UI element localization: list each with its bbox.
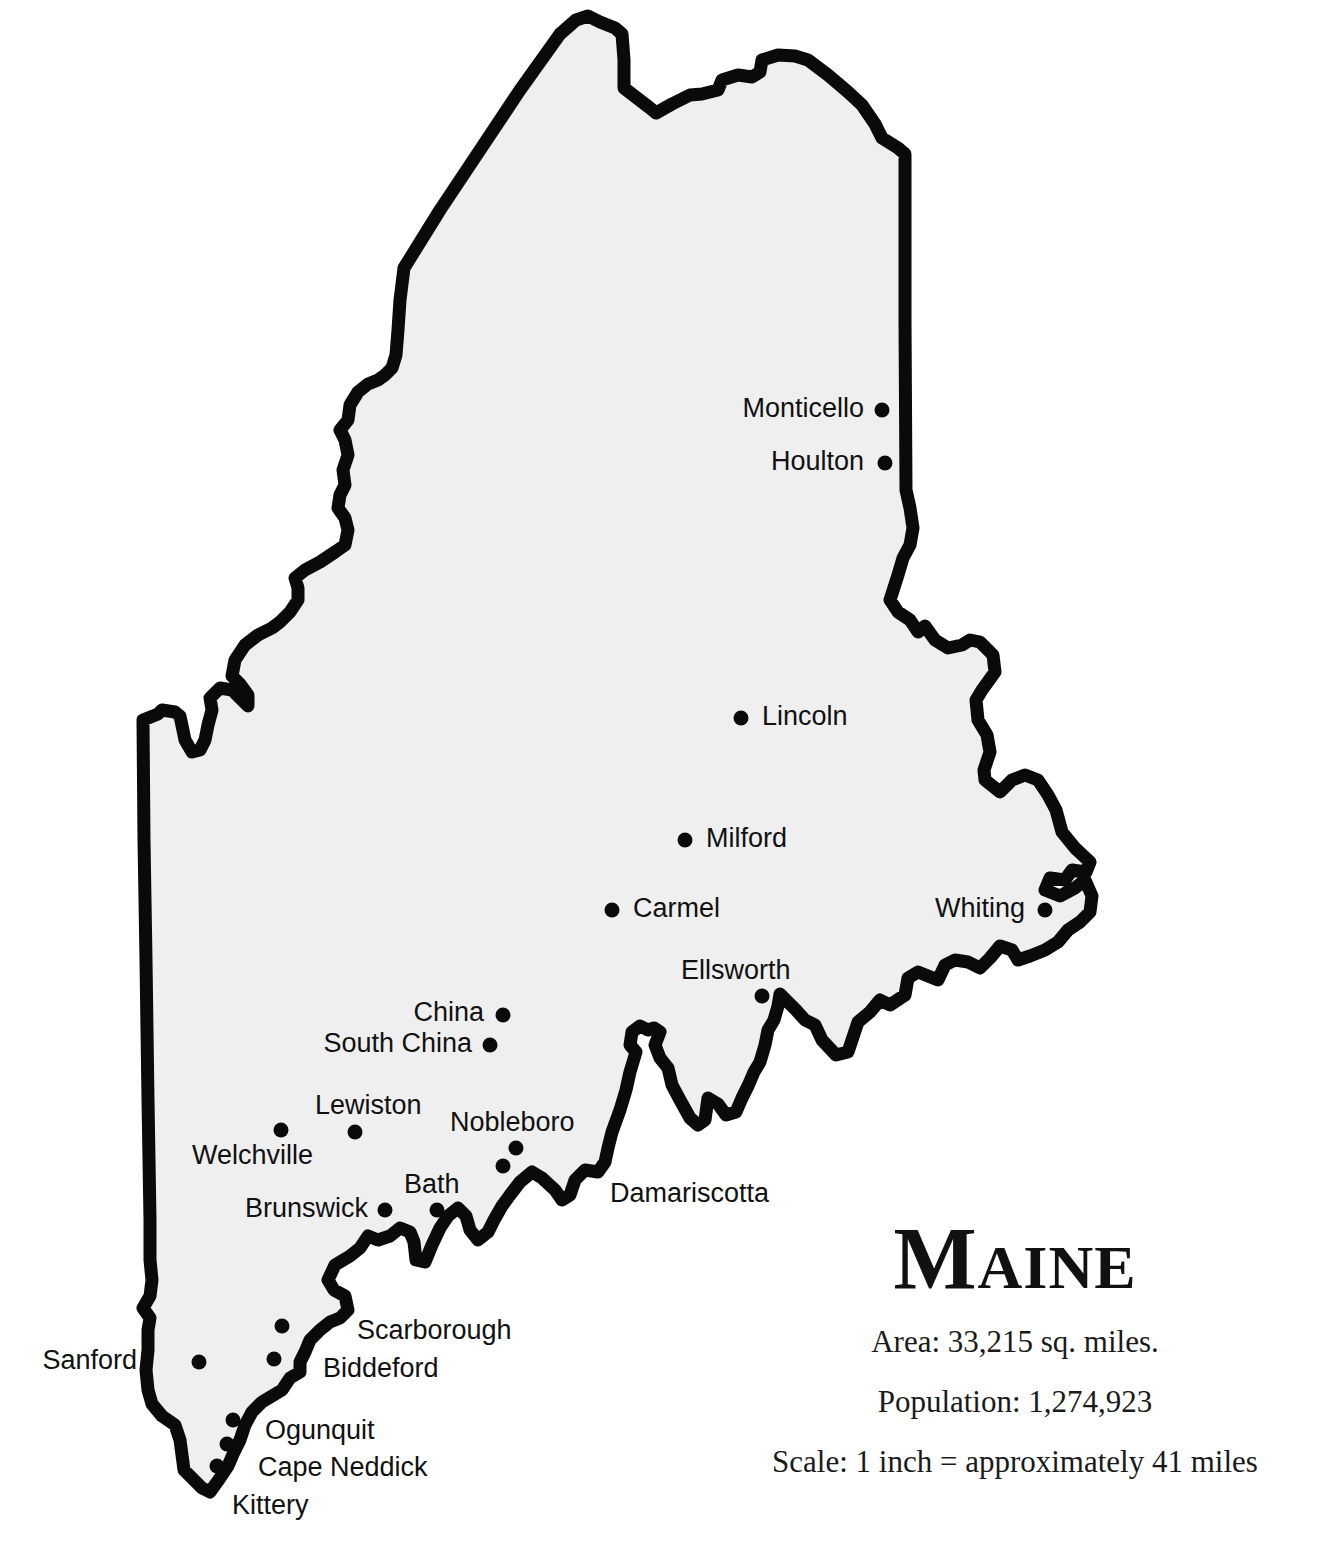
city-label-lincoln: Lincoln xyxy=(762,703,848,730)
city-marker-cape-neddick xyxy=(220,1437,235,1452)
city-label-monticello: Monticello xyxy=(742,395,864,422)
city-marker-houlton xyxy=(878,456,893,471)
scale-text: Scale: 1 inch = approximately 41 miles xyxy=(700,1431,1330,1491)
city-marker-biddeford xyxy=(267,1352,282,1367)
city-label-cape-neddick: Cape Neddick xyxy=(258,1454,428,1481)
city-marker-bath xyxy=(430,1203,445,1218)
city-marker-kittery xyxy=(210,1459,225,1474)
city-label-bath: Bath xyxy=(404,1171,460,1198)
city-label-brunswick: Brunswick xyxy=(245,1195,368,1222)
city-label-kittery: Kittery xyxy=(232,1492,309,1519)
city-label-houlton: Houlton xyxy=(771,448,864,475)
city-marker-lewiston xyxy=(348,1125,363,1140)
city-label-milford: Milford xyxy=(706,825,787,852)
state-info-panel: Maine Area: 33,215 sq. miles. Population… xyxy=(700,1215,1330,1491)
city-label-scarborough: Scarborough xyxy=(357,1317,512,1344)
city-marker-lincoln xyxy=(734,711,749,726)
city-marker-monticello xyxy=(875,403,890,418)
city-marker-milford xyxy=(678,833,693,848)
city-marker-sanford xyxy=(192,1355,207,1370)
city-label-nobleboro: Nobleboro xyxy=(450,1109,575,1136)
area-text: Area: 33,215 sq. miles. xyxy=(700,1311,1330,1371)
city-label-welchville: Welchville xyxy=(192,1142,313,1169)
city-label-ellsworth: Ellsworth xyxy=(681,957,791,984)
state-title: Maine xyxy=(700,1215,1330,1303)
city-label-sanford: Sanford xyxy=(42,1347,137,1374)
city-marker-china xyxy=(496,1008,511,1023)
city-label-china: China xyxy=(413,999,484,1026)
city-marker-south-china xyxy=(483,1038,498,1053)
maine-map: MonticelloHoultonLincolnMilfordCarmelWhi… xyxy=(0,0,1335,1559)
city-label-biddeford: Biddeford xyxy=(323,1355,439,1382)
city-marker-nobleboro xyxy=(509,1141,524,1156)
city-label-ogunquit: Ogunquit xyxy=(265,1417,375,1444)
city-marker-ogunquit xyxy=(226,1413,241,1428)
city-marker-damariscotta xyxy=(496,1159,511,1174)
city-marker-brunswick xyxy=(378,1203,393,1218)
city-marker-scarborough xyxy=(275,1319,290,1334)
city-marker-welchville xyxy=(274,1123,289,1138)
city-label-whiting: Whiting xyxy=(935,895,1025,922)
population-text: Population: 1,274,923 xyxy=(700,1371,1330,1431)
city-marker-carmel xyxy=(605,903,620,918)
city-label-damariscotta: Damariscotta xyxy=(610,1180,769,1207)
city-marker-ellsworth xyxy=(755,989,770,1004)
city-marker-whiting xyxy=(1038,903,1053,918)
city-label-carmel: Carmel xyxy=(633,895,720,922)
city-label-south-china: South China xyxy=(323,1030,472,1057)
city-label-lewiston: Lewiston xyxy=(315,1092,422,1119)
